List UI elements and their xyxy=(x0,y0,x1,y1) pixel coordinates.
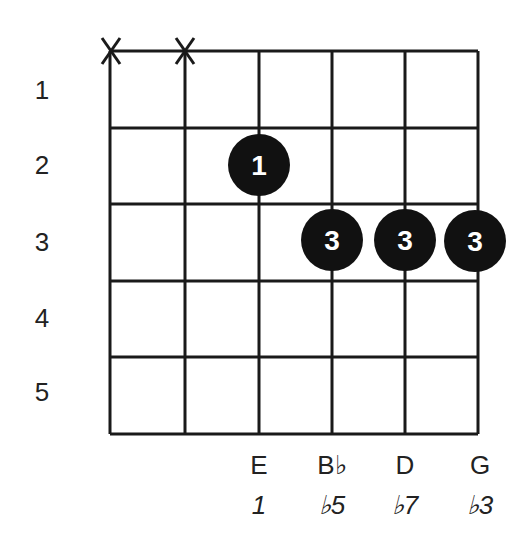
finger-dot-string-4: 1 xyxy=(228,134,290,196)
fret-label-5: 5 xyxy=(22,377,62,407)
svg-text:3: 3 xyxy=(324,225,340,256)
chord-diagram: 1 3 3 3 1 2 3 4 5 E B♭ D G 1 ♭5 ♭7 ♭3 xyxy=(0,0,528,545)
interval-label-flat5: ♭5 xyxy=(302,490,362,520)
fret-label-1: 1 xyxy=(22,75,62,105)
svg-text:3: 3 xyxy=(467,226,483,257)
note-label-bflat: B♭ xyxy=(302,450,362,480)
finger-dot-string-1: 3 xyxy=(444,210,506,272)
fret-label-3: 3 xyxy=(22,227,62,257)
interval-label-flat7: ♭7 xyxy=(375,490,435,520)
note-label-d: D xyxy=(375,450,435,480)
finger-dot-string-3: 3 xyxy=(301,209,363,271)
interval-label-flat3: ♭3 xyxy=(450,490,510,520)
interval-label-root: 1 xyxy=(229,490,289,520)
fret-label-2: 2 xyxy=(22,150,62,180)
svg-text:3: 3 xyxy=(397,225,413,256)
fret-label-4: 4 xyxy=(22,303,62,333)
note-label-g: G xyxy=(450,450,510,480)
note-label-e: E xyxy=(229,450,289,480)
finger-dot-string-2: 3 xyxy=(374,209,436,271)
svg-text:1: 1 xyxy=(251,150,267,181)
